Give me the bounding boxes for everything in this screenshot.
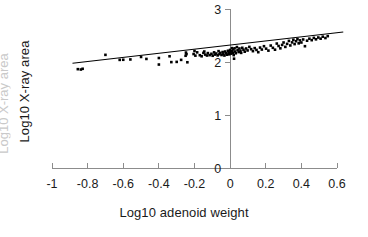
x-tick-label: -0.2 xyxy=(184,177,206,191)
x-axis-title: Log10 adenoid weight xyxy=(0,205,368,220)
x-tick-label: -0.6 xyxy=(112,177,134,191)
y-tick-label: 0 xyxy=(214,162,221,176)
y-tick-label: 2 xyxy=(214,56,221,70)
x-tick-label: -0.8 xyxy=(77,177,99,191)
x-tick-labels: -1-0.8-0.6-0.4-0.200.20.40.6 xyxy=(46,177,345,191)
x-tick-label: 0 xyxy=(227,177,234,191)
y-tick-label: 3 xyxy=(214,3,221,17)
scatter-chart: Log10 X-ray area -1-0.8-0.6-0.4-0.200.20… xyxy=(0,0,368,237)
x-tick-label: -1 xyxy=(46,177,57,191)
y-axis-title: Log10 X-ray area xyxy=(17,27,32,157)
x-tick-label: 0.6 xyxy=(328,177,345,191)
y-tick-label: 1 xyxy=(214,109,221,123)
y-axis xyxy=(225,9,230,168)
y-tick-labels: 0123 xyxy=(214,3,221,176)
x-axis xyxy=(52,163,337,168)
data-points xyxy=(77,35,330,71)
plot-area: -1-0.8-0.6-0.4-0.200.20.40.6 0123 xyxy=(0,0,368,237)
x-tick-label: -0.4 xyxy=(148,177,170,191)
x-tick-label: 0.2 xyxy=(257,177,274,191)
trendline xyxy=(72,32,343,63)
x-tick-label: 0.4 xyxy=(293,177,310,191)
